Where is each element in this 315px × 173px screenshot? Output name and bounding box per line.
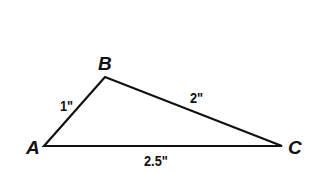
vertex-label-c: C [288, 138, 302, 157]
vertex-label-b: B [98, 54, 112, 73]
vertex-label-a: A [26, 138, 40, 157]
triangle-diagram: B A C 1" 2" 2.5" [0, 0, 315, 173]
triangle-shape [0, 0, 315, 173]
side-label-bc: 2" [190, 90, 203, 105]
side-label-ac: 2.5" [144, 153, 168, 168]
side-label-ab: 1" [60, 98, 73, 113]
